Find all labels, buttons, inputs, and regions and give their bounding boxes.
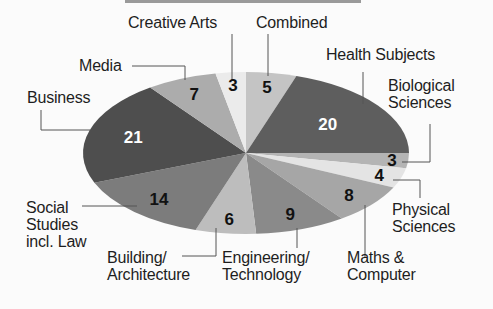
- value-label: 21: [124, 128, 143, 147]
- value-label: 20: [318, 115, 337, 134]
- value-label: 5: [262, 78, 271, 97]
- label-combined: Combined: [256, 14, 327, 31]
- value-label: 4: [375, 166, 385, 185]
- label-biological: Biological Sciences: [388, 77, 455, 111]
- value-label: 7: [189, 85, 198, 104]
- label-engineering: Engineering/ Technology: [222, 249, 309, 283]
- label-maths: Maths & Computer: [347, 249, 416, 283]
- value-label: 3: [228, 76, 237, 95]
- label-physical: Physical Sciences: [392, 201, 455, 235]
- label-media: Media: [79, 57, 122, 74]
- label-health: Health Subjects: [326, 46, 435, 63]
- value-label: 9: [285, 205, 294, 224]
- value-label: 8: [344, 186, 353, 205]
- value-label: 14: [150, 190, 169, 209]
- leader-business: [41, 110, 90, 130]
- leader-media: [132, 66, 185, 80]
- pie-slices: [83, 72, 409, 234]
- label-social: Social Studies incl. Law: [26, 199, 86, 250]
- value-label: 6: [224, 210, 233, 229]
- label-creative-arts: Creative Arts: [128, 14, 217, 31]
- label-building: Building/ Architecture: [107, 249, 190, 283]
- label-business: Business: [27, 89, 90, 106]
- value-label: 3: [387, 151, 396, 170]
